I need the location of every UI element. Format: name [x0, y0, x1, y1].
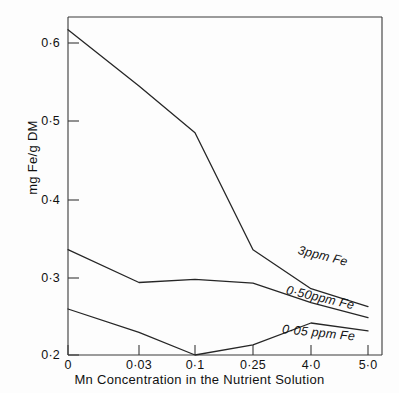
x-tick-label-0: 0 [64, 358, 71, 372]
x-axis-ticks [68, 345, 368, 355]
x-tick-label-1: 0·03 [126, 358, 152, 372]
y-axis-label: mg Fe/g DM [25, 88, 40, 228]
x-axis-label: Mn Concentration in the Nutrient Solutio… [0, 372, 399, 387]
x-tick-label-4: 4·0 [302, 358, 321, 372]
data-series-group [68, 30, 368, 355]
chart-figure: 0·2 0·3 0·4 0·5 0·6 0 0·03 0·1 0·25 4·0 … [0, 0, 399, 393]
x-tick-label-2: 0·1 [186, 358, 205, 372]
y-tick-label-0: 0·2 [14, 348, 60, 362]
x-tick-label-5: 5·0 [359, 358, 378, 372]
y-tick-label-4: 0·6 [14, 36, 60, 50]
series-line-3ppm-fe [68, 30, 368, 307]
y-axis-ticks [68, 43, 79, 355]
y-tick-label-1: 0·3 [14, 271, 60, 285]
x-tick-label-3: 0·25 [240, 358, 266, 372]
